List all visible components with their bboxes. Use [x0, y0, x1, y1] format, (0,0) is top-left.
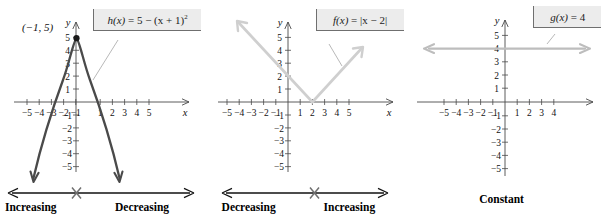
panel-absolute-value: −5 −4 −3 −2 −1 1 2 3 4 5 5 4 3 2 1 −1 −2…	[204, 0, 408, 224]
svg-text:5: 5	[147, 108, 152, 118]
equation-callout-f: f(x) = |x − 2|	[316, 9, 404, 31]
absolute-value-left-branch	[239, 23, 312, 102]
svg-text:−1: −1	[62, 111, 72, 121]
svg-text:−4: −4	[451, 108, 461, 118]
svg-text:−2: −2	[476, 108, 486, 118]
svg-text:5: 5	[277, 33, 282, 43]
callout-leader-line	[329, 44, 342, 66]
svg-text:−1: −1	[273, 111, 283, 121]
parabola-graph: −5 −4 −3 −2 −1 1 2 3 4 5 5 4 3 2 1 −1 −2…	[0, 0, 204, 224]
svg-text:2: 2	[527, 108, 532, 118]
svg-text:−5: −5	[439, 108, 449, 118]
svg-text:−4: −4	[234, 108, 244, 118]
svg-text:−4: −4	[491, 151, 501, 161]
trend-arrow-line	[222, 188, 388, 197]
trend-label-left: Increasing	[5, 201, 57, 213]
x-axis-name: x	[385, 107, 391, 118]
trend-label-left: Decreasing	[222, 201, 276, 213]
trend-arrow-line	[8, 188, 194, 197]
y-axis	[284, 22, 290, 172]
svg-text:−5: −5	[222, 108, 232, 118]
svg-text:−4: −4	[34, 108, 44, 118]
svg-text:3: 3	[322, 108, 327, 118]
equation-arg: (x)	[556, 11, 568, 23]
callout-leader-line	[93, 40, 118, 80]
svg-text:−3: −3	[246, 108, 256, 118]
panel-constant: −5 −4 −3 −2 −1 1 2 3 4 5 4 3 2 1 −1 −2 −…	[407, 0, 611, 224]
vertex-point	[73, 35, 79, 41]
svg-text:4: 4	[277, 46, 282, 56]
svg-text:−1: −1	[491, 111, 501, 121]
svg-text:−5: −5	[22, 108, 32, 118]
svg-text:−2: −2	[258, 108, 268, 118]
equation-callout-h: h(x) = 5 − (x + 1)2	[93, 9, 201, 31]
svg-text:3: 3	[539, 108, 544, 118]
equation-body: = |x − 2|	[348, 14, 387, 26]
x-tick-labels: −5 −4 −3 −2 −1 1 2 3 4 5	[22, 108, 152, 118]
y-axis-name: y	[276, 17, 282, 28]
x-axis-name: x	[182, 107, 188, 118]
svg-text:2: 2	[277, 72, 282, 82]
constant-graph: −5 −4 −3 −2 −1 1 2 3 4 5 4 3 2 1 −1 −2 −…	[407, 0, 611, 224]
svg-text:−4: −4	[273, 149, 283, 159]
function-behavior-figure: −5 −4 −3 −2 −1 1 2 3 4 5 5 4 3 2 1 −1 −2…	[0, 0, 611, 224]
equation-body: = 4	[568, 11, 585, 23]
svg-text:4: 4	[65, 46, 70, 56]
svg-text:−4: −4	[62, 149, 72, 159]
vertex-label: (−1, 5)	[22, 21, 53, 33]
svg-text:4: 4	[334, 108, 339, 118]
svg-text:−2: −2	[491, 125, 501, 135]
svg-text:−5: −5	[62, 162, 72, 172]
y-axis-name: y	[494, 15, 500, 26]
svg-text:3: 3	[494, 57, 499, 67]
panel-parabola: −5 −4 −3 −2 −1 1 2 3 4 5 5 4 3 2 1 −1 −2…	[0, 0, 204, 224]
svg-text:−5: −5	[491, 164, 501, 174]
svg-text:5: 5	[65, 33, 70, 43]
y-axis-name: y	[65, 17, 71, 28]
svg-text:4: 4	[552, 108, 557, 118]
trend-label-right: Increasing	[324, 201, 376, 213]
svg-text:2: 2	[110, 108, 115, 118]
equation-exponent: 2	[184, 13, 187, 20]
svg-text:−3: −3	[491, 138, 501, 148]
svg-text:3: 3	[122, 108, 127, 118]
x-tick-labels: −5 −4 −3 −2 −1 1 2 3 4 5	[222, 108, 352, 118]
y-axis	[502, 20, 508, 176]
equation-arg: (x)	[113, 14, 125, 26]
trend-label-right: Decreasing	[115, 201, 169, 213]
svg-text:−3: −3	[464, 108, 474, 118]
svg-text:1: 1	[65, 85, 70, 95]
svg-text:1: 1	[494, 84, 499, 94]
equation-arg: (x)	[336, 14, 348, 26]
svg-text:5: 5	[494, 31, 499, 41]
svg-text:2: 2	[310, 108, 315, 118]
equation-callout-g: g(x) = 4	[533, 6, 601, 28]
svg-text:−2: −2	[62, 124, 72, 134]
svg-text:1: 1	[297, 108, 302, 118]
svg-text:−3: −3	[273, 136, 283, 146]
trend-label-center: Constant	[479, 193, 524, 205]
x-axis	[218, 99, 393, 105]
svg-text:−3: −3	[62, 136, 72, 146]
svg-text:−2: −2	[273, 124, 283, 134]
svg-text:1: 1	[515, 108, 520, 118]
svg-text:4: 4	[134, 108, 139, 118]
svg-text:−5: −5	[273, 162, 283, 172]
equation-body: = 5 − (x + 1)	[125, 14, 184, 26]
absolute-value-graph: −5 −4 −3 −2 −1 1 2 3 4 5 5 4 3 2 1 −1 −2…	[204, 0, 408, 224]
callout-leader-line	[547, 34, 555, 44]
svg-text:2: 2	[494, 71, 499, 81]
svg-text:−1: −1	[71, 108, 81, 118]
x-axis	[14, 99, 189, 105]
svg-text:1: 1	[277, 85, 282, 95]
svg-text:5: 5	[346, 108, 351, 118]
